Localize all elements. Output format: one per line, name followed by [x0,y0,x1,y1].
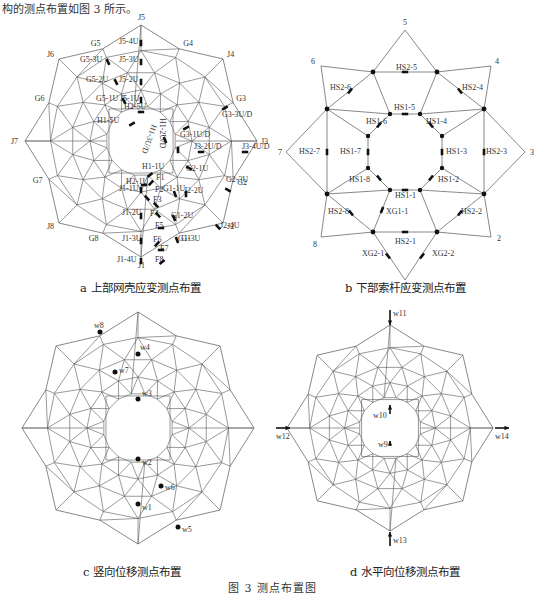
strain-label-xg2-2: XG2-2 [432,249,454,258]
ring-node [325,192,330,197]
ring-node [482,192,487,197]
inner-ring-node [366,166,370,170]
strain-label: J5-4U [119,37,139,46]
strain-label-hs2-3: HS2-3 [486,147,507,156]
arrow-head-icon [388,405,392,410]
strain-label: J5-2U [119,75,139,84]
outer-node-label-2: 2 [497,234,501,243]
displacement-point-w3 [136,397,141,402]
displacement-point-w8 [98,330,103,335]
caption-panel-d: d 水平向位移测点布置 [350,563,460,579]
displacement-point-w4 [136,352,141,357]
inner-ring-node [418,188,422,192]
strain-label-hs1-7: HS1-7 [340,147,361,156]
point-label-w12: w12 [276,432,290,441]
point-label-w13: w13 [393,536,407,545]
strain-gauge-marker [107,59,110,65]
point-label-w7: w7 [119,366,129,375]
strain-label-hs1-2: HS1-2 [438,175,459,184]
strain-gauge-marker [349,210,353,215]
ring-node [435,230,440,235]
strain-label-hs2-2: HS2-2 [461,207,482,216]
point-label-w5: w5 [182,525,192,534]
strain-label: J1-4U [117,255,137,264]
inner-ring-node [440,134,444,138]
point-label-w14: w14 [495,432,509,441]
strain-label: G3-1U/D [180,130,210,139]
point-label-w6: w6 [165,483,175,492]
strain-gauge-marker [377,175,381,180]
caption-panel-b: b 下部索杆应变测点布置 [345,279,466,295]
displacement-point-w7 [113,370,118,375]
ring-node [482,107,487,112]
strain-label-xg1-1: XG1-1 [386,207,408,216]
ring-node [371,230,376,235]
strain-gauge-marker [148,173,153,177]
node-label-g4: G4 [183,39,193,48]
strain-label: G2-3U [226,175,248,184]
strain-gauge-marker [145,196,149,201]
strain-label: H1-2U/D [158,118,167,148]
strain-gauge-marker [429,175,433,180]
strain-label-hs1-3: HS1-3 [446,147,467,156]
strain-label: H1-3U/D [140,123,159,155]
figure-3-measurement-layout: J5J4J3J2J1J8J7J6G4G3G2G1G8G7G6G5J5-4UJ5-… [0,0,539,594]
strain-label-hs2-5: HS2-5 [396,63,417,72]
arrow-head-icon [388,320,392,325]
outer-node-label-7: 7 [278,148,282,157]
point-label-w8: w8 [94,321,104,330]
arrow-head-icon [388,441,392,446]
node-label-j8: J8 [47,222,54,231]
point-label-w9: w9 [378,440,388,449]
point-label-w1: w1 [142,503,152,512]
strain-label: J1-2U [122,208,142,217]
node-label-j5: J5 [138,13,145,22]
point-label-w2: w2 [142,458,152,467]
strain-label: J3-2U/D [194,142,222,151]
inner-ring-node [440,166,444,170]
strain-label: J1-3U [122,234,142,243]
node-label-j4: J4 [227,50,234,59]
caption-panel-c: c 竖向位移测点布置 [83,563,181,579]
outer-node-label-8: 8 [313,240,317,249]
node-label-j7: J7 [11,137,18,146]
strain-label: H2-5U [124,102,146,111]
figure-caption: 图 3 测点布置图 [228,579,317,594]
outer-node-label-4: 4 [495,57,499,66]
arrow-head-icon [504,426,509,430]
strain-gauge-marker [386,253,390,258]
strain-label-hs2-4: HS2-4 [462,83,483,92]
strain-gauge-marker [149,181,153,186]
strain-label: G5-1U [96,94,118,103]
panel-a-upper-shell-strain: J5J4J3J2J1J8J7J6G4G3G2G1G8G7G6G5J5-4UJ5-… [11,13,270,270]
inner-ring-node [418,112,422,116]
strain-label: F1 [156,173,164,182]
strain-label: G5-3U [80,55,102,64]
strain-label-hs1-5: HS1-5 [394,103,415,112]
node-label-g5: G5 [91,39,101,48]
strain-label-hs1-6: HS1-6 [366,117,387,126]
panel-d-horizontal-displacement: w9w10w11w12w13w14 [276,309,509,546]
outer-node-label-6: 6 [311,57,315,66]
panel-b-lower-cable-strut-strain: 12345678HS2-5HS2-6HS2-4HS1-5HS1-6HS1-4HS… [278,18,534,292]
caption-panel-a: a 上部网壳应变测点布置 [80,279,201,295]
ring-node [371,70,376,75]
strain-label: G5-2U [86,75,108,84]
displacement-point-w2 [136,457,141,462]
node-label-g6: G6 [35,94,45,103]
displacement-point-w6 [159,484,164,489]
strain-label-hs2-1: HS2-1 [395,237,416,246]
outer-node-label-3: 3 [530,148,534,157]
point-label-w10: w10 [373,411,387,420]
strain-label: H1-5U [97,116,119,125]
point-label-w4: w4 [140,343,150,352]
strain-label-hs2-7: HS2-7 [299,147,320,156]
panel-c-vertical-displacement: w1w2w3w4w5w6w7w8 [22,312,254,544]
strain-label-hs1-8: HS1-8 [349,175,370,184]
arrow-head-icon [388,532,392,537]
strain-label: J3-4U/D [242,142,270,151]
strain-label: G3-3U/D [222,110,252,119]
strain-label: H1-1U [142,162,164,171]
ring-node [325,107,330,112]
outer-node-label-5: 5 [403,18,407,27]
